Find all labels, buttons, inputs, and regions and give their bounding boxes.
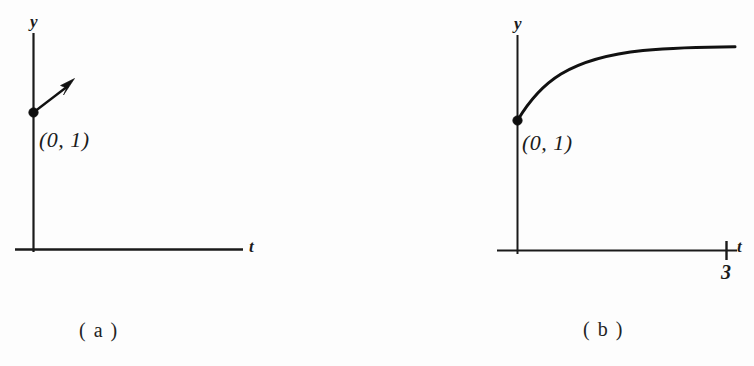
solution-curve-b (518, 47, 736, 121)
initial-point-label-b: (0, 1) (522, 132, 573, 154)
t-axis-label-b: t (737, 238, 742, 255)
t-axis-label-a: t (249, 238, 254, 255)
initial-point-dot-a (29, 108, 38, 117)
slope-vector-shaft-a (34, 86, 68, 112)
y-axis-label-a: y (30, 13, 38, 30)
panel-a: y t (0, 1) ( a ) (0, 0, 377, 366)
figure-root: y t (0, 1) ( a ) y t 3 (0, 1) ( b ) (0, 0, 754, 366)
panel-a-canvas (0, 0, 377, 366)
y-axis-label-b: y (514, 15, 522, 32)
t-axis-tick-label-3-b: 3 (721, 262, 731, 282)
panel-b-canvas (377, 0, 754, 366)
panel-b: y t 3 (0, 1) ( b ) (377, 0, 754, 366)
initial-point-label-a: (0, 1) (39, 129, 90, 151)
panel-caption-b: ( b ) (583, 319, 624, 339)
slope-vector-arrowhead-a (61, 79, 75, 96)
initial-point-dot-b (513, 116, 522, 125)
panel-caption-a: ( a ) (79, 320, 119, 340)
